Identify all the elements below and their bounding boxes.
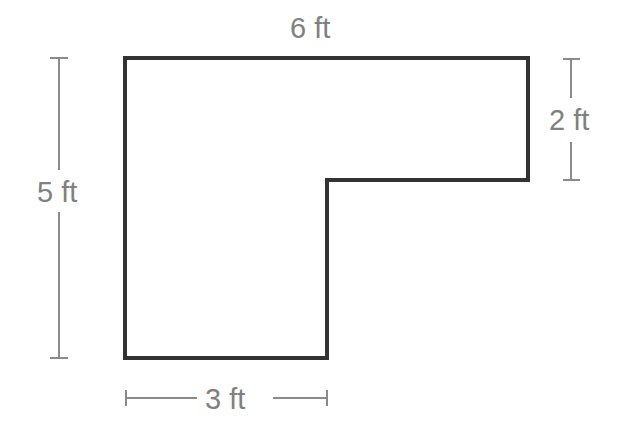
l-shape-outline — [125, 58, 528, 358]
left-dimension-line — [50, 58, 68, 358]
left-dimension-label: 5 ft — [37, 178, 77, 207]
top-dimension-label: 6 ft — [290, 14, 330, 43]
diagram-canvas — [0, 0, 638, 435]
bottom-dimension-label: 3 ft — [205, 385, 245, 414]
right-dimension-label: 2 ft — [549, 106, 589, 135]
